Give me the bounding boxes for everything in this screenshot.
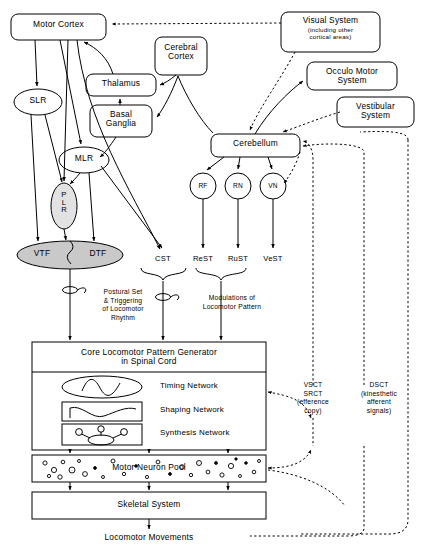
node-vtf-dtf-shape (17, 241, 123, 269)
node-vestibular-shape (337, 97, 414, 127)
edge-outer-rail-top (360, 131, 408, 140)
edge-visual-motorcortex (112, 23, 281, 24)
edge-dsct-to-mnp (268, 470, 345, 506)
synthesis-network-icon-shape (62, 424, 142, 445)
node-cerebral-cortex-shape (155, 37, 207, 75)
node-motor-cortex-shape (11, 14, 106, 40)
node-plr-shape (51, 183, 77, 229)
edge-cpg-vsct (268, 392, 311, 418)
edge-dsct-cerebellum (303, 144, 364, 385)
edge-dsct-lower-loop (250, 446, 364, 536)
node-cerebellum-shape (211, 134, 300, 157)
edge-motorcortex-cst (77, 40, 160, 249)
node-rn-shape (225, 173, 251, 199)
edge-cerebellum-rf (207, 157, 224, 170)
edge-slr-plr (45, 115, 62, 182)
node-visual-system-shape (281, 12, 380, 52)
edge-feedback-mnp (268, 450, 311, 468)
edge-outer-rail (300, 140, 408, 534)
node-thalamus-shape (86, 74, 156, 96)
brace-right (196, 268, 246, 280)
shaping-network-icon-shape (62, 402, 142, 421)
edge-mlr-plr (70, 173, 80, 184)
node-rf-shape (190, 173, 216, 199)
edge-plr-vtfdtf (64, 229, 66, 240)
edge-slr-vtf (31, 115, 38, 241)
diagram-canvas: Motor Cortex Cerebral Cortex Thalamus Ba… (0, 0, 434, 549)
edge-cerebralcortex-thalamus (160, 75, 176, 85)
edge-visual-cerebellum (250, 52, 295, 130)
edge-vsct-cerebellum (303, 141, 313, 385)
cpg-box-shape (32, 342, 266, 450)
skeletal-system-shape (32, 492, 266, 519)
edge-motorcortex-slr (35, 40, 37, 86)
edge-cerebellum-rn (238, 157, 240, 169)
diagram-vector-layer (0, 0, 434, 549)
edge-mlr-cstline (101, 166, 162, 248)
edge-mlr-dtf (89, 173, 94, 241)
edge-motorcortex-mlr (60, 40, 81, 144)
node-mlr-shape (59, 147, 109, 173)
node-basal-ganglia-shape (90, 105, 152, 137)
fibre-cut-symbol-left (63, 287, 86, 294)
edge-cerebellum-occulomotor (255, 81, 303, 134)
shaping-network-wave (70, 407, 136, 418)
brace-left (141, 268, 186, 280)
edge-vestibular-cerebellum (283, 112, 340, 132)
node-occulo-motor-shape (307, 62, 397, 90)
node-slr-shape (14, 89, 62, 115)
edge-cerebralcortex-cerebellum (178, 76, 213, 133)
synthesis-network-glyph (76, 426, 128, 445)
fibre-cut-symbol-middle (156, 294, 179, 301)
edge-cerebralcortex-basalganglia (157, 76, 178, 117)
timing-network-icon-shape (62, 376, 142, 398)
edge-cerebellum-vn (268, 157, 272, 169)
motor-neuron-dots (43, 458, 261, 479)
node-vn-shape (260, 173, 286, 199)
edge-thalamus-motorcortex (84, 42, 113, 74)
timing-network-wave (82, 379, 120, 395)
